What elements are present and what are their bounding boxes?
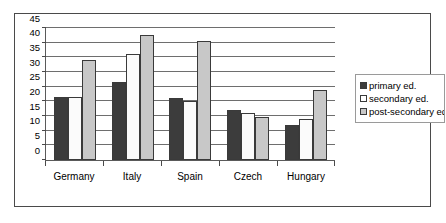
bar-germany-series-2[interactable]	[82, 60, 96, 160]
y-axis-tick-label: 10	[29, 116, 40, 126]
y-axis-tick-label: 0	[35, 146, 40, 156]
x-axis-label-hungary: Hungary	[287, 172, 325, 195]
y-axis-tick-label: 25	[29, 72, 40, 82]
legend-label: primary ed.	[369, 81, 417, 91]
x-axis-label-spain: Spain	[177, 172, 203, 195]
x-axis-cell: Czech	[219, 161, 277, 195]
y-axis-tick-label: 30	[29, 58, 40, 68]
legend-item-2[interactable]: post-secondary ed	[360, 105, 441, 118]
bar-spain-series-1[interactable]	[183, 101, 197, 160]
legend-swatch-icon	[360, 82, 367, 89]
x-axis-tick	[45, 161, 46, 166]
x-axis-cell: Spain	[161, 161, 219, 195]
bar-italy-series-2[interactable]	[140, 35, 154, 160]
x-axis-tick	[277, 161, 278, 166]
y-axis-tick-label: 35	[29, 43, 40, 53]
bar-group-spain	[162, 28, 220, 160]
legend-label: post-secondary ed	[369, 107, 445, 117]
x-axis-cell: Italy	[103, 161, 161, 195]
bar-italy-series-1[interactable]	[126, 54, 140, 160]
bar-italy-series-0[interactable]	[112, 82, 126, 160]
bar-group-hungary	[277, 28, 335, 160]
y-axis-tick-label: 45	[29, 14, 40, 24]
bar-czech-series-1[interactable]	[241, 113, 255, 160]
legend-swatch-icon	[360, 95, 367, 102]
x-axis-tick	[103, 161, 104, 166]
bar-hungary-series-0[interactable]	[285, 125, 299, 160]
legend-swatch-icon	[360, 108, 367, 115]
chart-legend: primary ed.secondary ed.post-secondary e…	[355, 74, 445, 123]
bar-spain-series-2[interactable]	[197, 41, 211, 160]
bar-czech-series-0[interactable]	[227, 110, 241, 160]
y-axis-tick-label: 15	[29, 102, 40, 112]
bar-germany-series-0[interactable]	[54, 97, 68, 160]
x-axis-label-czech: Czech	[234, 172, 262, 195]
plot-area: 051015202530354045	[45, 28, 335, 161]
y-axis-tick-label: 20	[29, 87, 40, 97]
legend-label: secondary ed.	[369, 94, 429, 104]
bar-hungary-series-2[interactable]	[313, 90, 327, 160]
bar-group-italy	[104, 28, 162, 160]
x-axis-cell: Germany	[45, 161, 103, 195]
legend-item-1[interactable]: secondary ed.	[360, 92, 441, 105]
bar-group-czech	[219, 28, 277, 160]
x-axis-tick	[334, 161, 335, 166]
bar-germany-series-1[interactable]	[68, 97, 82, 160]
y-axis-tick-label: 5	[35, 131, 40, 141]
legend-item-0[interactable]: primary ed.	[360, 79, 441, 92]
bar-hungary-series-1[interactable]	[299, 119, 313, 160]
bar-series-layer	[46, 28, 335, 160]
y-axis-tick-label: 40	[29, 28, 40, 38]
x-axis-label-italy: Italy	[123, 172, 141, 195]
x-axis-labels: GermanyItalySpainCzechHungary	[45, 161, 335, 195]
bar-czech-series-2[interactable]	[255, 117, 269, 160]
x-axis-tick	[219, 161, 220, 166]
x-axis-cell: Hungary	[277, 161, 335, 195]
chart-frame: 051015202530354045 GermanyItalySpainCzec…	[14, 13, 431, 207]
bar-spain-series-0[interactable]	[169, 98, 183, 160]
x-axis-tick	[161, 161, 162, 166]
bar-group-germany	[46, 28, 104, 160]
x-axis-label-germany: Germany	[53, 172, 94, 195]
